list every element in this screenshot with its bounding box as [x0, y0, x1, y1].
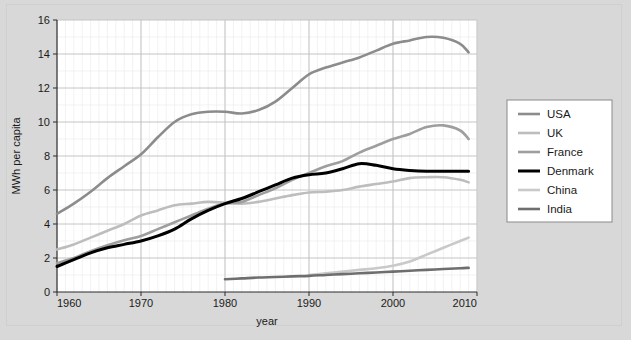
x-tick-label: 2000 — [381, 297, 405, 309]
y-tick-label: 4 — [44, 218, 50, 230]
y-tick-label: 8 — [44, 150, 50, 162]
legend-label-france: France — [547, 146, 583, 158]
y-tick-label: 14 — [38, 48, 50, 60]
legend-label-usa: USA — [547, 108, 571, 120]
legend-label-denmark: Denmark — [547, 165, 594, 177]
x-tick-label: 1990 — [297, 297, 321, 309]
x-axis-title: year — [256, 315, 278, 327]
x-tick-label: 1970 — [129, 297, 153, 309]
chart-svg: 0246810121416196019701980199020002010yea… — [0, 0, 631, 340]
y-tick-label: 0 — [44, 286, 50, 298]
x-tick-label: 1980 — [213, 297, 237, 309]
chart-figure: 0246810121416196019701980199020002010yea… — [0, 0, 631, 340]
x-tick-label: 2010 — [453, 297, 477, 309]
y-axis-title: MWh per capita — [10, 117, 22, 195]
y-tick-label: 12 — [38, 82, 50, 94]
legend-label-china: China — [547, 184, 578, 196]
y-tick-label: 6 — [44, 184, 50, 196]
y-tick-label: 2 — [44, 252, 50, 264]
y-tick-label: 16 — [38, 14, 50, 26]
legend-label-uk: UK — [547, 127, 563, 139]
y-tick-label: 10 — [38, 116, 50, 128]
x-tick-label: 1960 — [57, 297, 81, 309]
legend: USAUKFranceDenmarkChinaIndia — [507, 100, 612, 222]
legend-label-india: India — [547, 203, 573, 215]
